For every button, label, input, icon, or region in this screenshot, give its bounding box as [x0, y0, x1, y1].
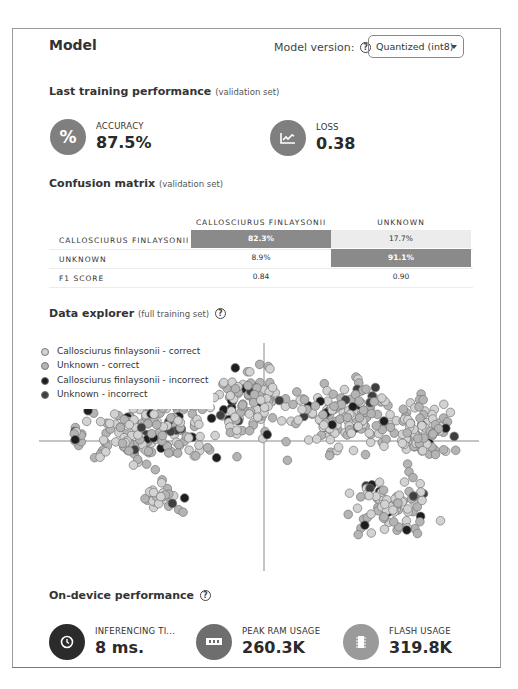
data-point[interactable] [429, 430, 438, 439]
data-point[interactable] [330, 402, 339, 411]
data-point[interactable] [294, 416, 303, 425]
data-point[interactable] [282, 437, 291, 446]
data-point[interactable] [147, 429, 156, 438]
data-point[interactable] [349, 446, 358, 455]
data-point[interactable] [173, 449, 182, 458]
data-point[interactable] [283, 456, 292, 465]
data-point[interactable] [304, 436, 313, 445]
data-point[interactable] [96, 417, 105, 426]
data-point[interactable] [375, 478, 384, 487]
data-point[interactable] [220, 378, 229, 387]
data-point[interactable] [325, 451, 334, 460]
data-point[interactable] [268, 383, 277, 392]
data-point[interactable] [233, 426, 242, 435]
data-point[interactable] [354, 422, 363, 431]
data-point[interactable] [399, 405, 408, 414]
data-point[interactable] [372, 422, 381, 431]
data-point[interactable] [354, 530, 363, 539]
data-point[interactable] [207, 414, 216, 423]
data-point[interactable] [403, 505, 412, 514]
data-point[interactable] [416, 517, 425, 526]
data-point[interactable] [395, 491, 404, 500]
data-point[interactable] [266, 365, 275, 374]
data-point[interactable] [255, 360, 264, 369]
data-point[interactable] [151, 465, 160, 474]
data-point[interactable] [386, 410, 395, 419]
data-point[interactable] [446, 408, 455, 417]
data-point[interactable] [211, 431, 220, 440]
data-point[interactable] [125, 447, 134, 456]
data-point[interactable] [361, 450, 370, 459]
data-point[interactable] [389, 506, 398, 515]
data-point[interactable] [203, 443, 212, 452]
data-point[interactable] [380, 442, 389, 451]
data-point[interactable] [353, 504, 362, 513]
data-point[interactable] [418, 421, 427, 430]
data-point[interactable] [416, 479, 425, 488]
data-point[interactable] [105, 419, 114, 428]
data-point[interactable] [414, 434, 423, 443]
data-point[interactable] [244, 381, 253, 390]
data-point[interactable] [366, 438, 375, 447]
data-point[interactable] [398, 439, 407, 448]
data-point[interactable] [450, 432, 459, 441]
data-point[interactable] [367, 529, 376, 538]
data-point[interactable] [118, 439, 127, 448]
data-point[interactable] [164, 449, 173, 458]
data-point[interactable] [355, 414, 364, 423]
data-point[interactable] [380, 513, 389, 522]
data-point[interactable] [231, 364, 240, 373]
data-point[interactable] [212, 454, 221, 463]
help-icon[interactable]: ? [200, 590, 211, 601]
data-point[interactable] [142, 460, 151, 469]
data-point[interactable] [152, 421, 161, 430]
data-point[interactable] [231, 413, 240, 422]
data-point[interactable] [403, 429, 412, 438]
data-point[interactable] [275, 396, 284, 405]
data-point[interactable] [361, 521, 370, 530]
data-point[interactable] [125, 421, 134, 430]
data-point[interactable] [386, 423, 395, 432]
data-point[interactable] [439, 446, 448, 455]
data-point[interactable] [418, 496, 427, 505]
data-point[interactable] [179, 508, 188, 517]
data-point[interactable] [180, 494, 189, 503]
data-point[interactable] [319, 410, 328, 419]
data-point[interactable] [175, 440, 184, 449]
data-point[interactable] [379, 486, 388, 495]
data-point[interactable] [233, 452, 242, 461]
data-point[interactable] [418, 446, 427, 455]
data-point[interactable] [174, 417, 183, 426]
data-point[interactable] [406, 419, 415, 428]
data-point[interactable] [347, 429, 356, 438]
data-point[interactable] [289, 400, 298, 409]
data-point[interactable] [185, 434, 194, 443]
data-point[interactable] [365, 429, 374, 438]
data-point[interactable] [144, 447, 153, 456]
data-point[interactable] [157, 492, 166, 501]
data-point[interactable] [141, 494, 150, 503]
data-point[interactable] [345, 489, 354, 498]
data-point[interactable] [253, 413, 262, 422]
data-point[interactable] [277, 417, 286, 426]
data-point[interactable] [403, 460, 412, 469]
data-point[interactable] [356, 493, 365, 502]
data-point[interactable] [400, 478, 409, 487]
data-point[interactable] [102, 448, 111, 457]
data-point[interactable] [245, 427, 254, 436]
data-point[interactable] [362, 385, 371, 394]
data-point[interactable] [116, 423, 125, 432]
data-point[interactable] [246, 368, 255, 377]
data-point[interactable] [365, 491, 374, 500]
data-point[interactable] [344, 510, 353, 519]
data-point[interactable] [157, 479, 166, 488]
data-point[interactable] [326, 435, 335, 444]
data-point[interactable] [403, 526, 412, 535]
data-point[interactable] [413, 529, 422, 538]
data-point[interactable] [359, 406, 368, 415]
data-point[interactable] [196, 432, 205, 441]
data-point[interactable] [311, 402, 320, 411]
data-point[interactable] [158, 431, 167, 440]
data-point[interactable] [298, 405, 307, 414]
data-point[interactable] [168, 499, 177, 508]
